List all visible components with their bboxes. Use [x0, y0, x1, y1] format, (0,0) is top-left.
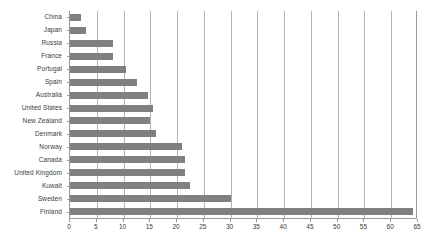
- category-tick: [67, 160, 70, 161]
- bar: [70, 156, 185, 163]
- bar-row: [70, 192, 416, 205]
- category-tick: [67, 17, 70, 18]
- bar: [70, 53, 113, 60]
- value-tick-label: 60: [387, 224, 394, 231]
- bar-row: [70, 205, 416, 218]
- bar-row: [70, 11, 416, 24]
- value-tick: [363, 219, 364, 222]
- bar: [70, 40, 113, 47]
- bar-row: [70, 102, 416, 115]
- value-tick-label: 65: [413, 224, 420, 231]
- value-tick-label: 55: [360, 224, 367, 231]
- bar: [70, 195, 231, 202]
- category-label: Norway: [0, 141, 66, 154]
- value-tick: [149, 219, 150, 222]
- category-tick: [67, 173, 70, 174]
- category-tick: [67, 43, 70, 44]
- bar-row: [70, 179, 416, 192]
- bar-row: [70, 89, 416, 102]
- category-label: Portugal: [0, 63, 66, 76]
- category-label: Russia: [0, 37, 66, 50]
- value-tick-label: 20: [172, 224, 179, 231]
- bar: [70, 169, 185, 176]
- bar-row: [70, 63, 416, 76]
- value-tick-label: 40: [280, 224, 287, 231]
- plot-area: [69, 11, 417, 219]
- category-label: New Zealand: [0, 115, 66, 128]
- bar-row: [70, 76, 416, 89]
- category-label: Japan: [0, 24, 66, 37]
- value-tick-label: 30: [226, 224, 233, 231]
- value-tick-label: 5: [94, 224, 98, 231]
- category-tick: [67, 121, 70, 122]
- value-tick-label: 10: [119, 224, 126, 231]
- category-tick: [67, 82, 70, 83]
- bar: [70, 105, 153, 112]
- category-label: Finland: [0, 206, 66, 219]
- category-tick: [67, 56, 70, 57]
- category-tick: [67, 108, 70, 109]
- bar-row: [70, 115, 416, 128]
- category-axis: ChinaJapanRussiaFrancePortugalSpainAustr…: [0, 11, 66, 219]
- bar-row: [70, 37, 416, 50]
- value-tick: [203, 219, 204, 222]
- value-tick-label: 0: [67, 224, 71, 231]
- bar-chart: ChinaJapanRussiaFrancePortugalSpainAustr…: [0, 0, 442, 244]
- bar-row: [70, 127, 416, 140]
- category-label: China: [0, 11, 66, 24]
- category-label: Kuwait: [0, 180, 66, 193]
- bar: [70, 66, 126, 73]
- category-tick: [67, 30, 70, 31]
- value-tick: [390, 219, 391, 222]
- bar: [70, 130, 156, 137]
- bar: [70, 92, 148, 99]
- category-tick: [67, 199, 70, 200]
- value-tick: [176, 219, 177, 222]
- value-tick-label: 15: [146, 224, 153, 231]
- value-axis: 05101520253035404550556065: [69, 219, 417, 241]
- category-label: Spain: [0, 76, 66, 89]
- bar-row: [70, 166, 416, 179]
- category-tick: [67, 186, 70, 187]
- category-label: Australia: [0, 89, 66, 102]
- value-tick: [96, 219, 97, 222]
- value-tick: [69, 219, 70, 222]
- bar-row: [70, 50, 416, 63]
- bar-row: [70, 153, 416, 166]
- bar: [70, 117, 150, 124]
- category-tick: [67, 147, 70, 148]
- value-tick-label: 50: [333, 224, 340, 231]
- value-tick: [230, 219, 231, 222]
- value-tick: [337, 219, 338, 222]
- value-tick: [256, 219, 257, 222]
- category-tick: [67, 134, 70, 135]
- category-label: France: [0, 50, 66, 63]
- category-tick: [67, 69, 70, 70]
- bars-layer: [70, 11, 416, 218]
- category-label: Sweden: [0, 193, 66, 206]
- value-tick-label: 35: [253, 224, 260, 231]
- bar: [70, 182, 190, 189]
- bar: [70, 27, 86, 34]
- value-tick: [283, 219, 284, 222]
- bar: [70, 14, 81, 21]
- value-tick: [123, 219, 124, 222]
- value-tick-label: 45: [306, 224, 313, 231]
- category-label: Canada: [0, 154, 66, 167]
- category-label: United States: [0, 102, 66, 115]
- category-label: United Kingdom: [0, 167, 66, 180]
- category-tick: [67, 212, 70, 213]
- value-tick: [417, 219, 418, 222]
- category-label: Denmark: [0, 128, 66, 141]
- bar-row: [70, 24, 416, 37]
- bar: [70, 79, 137, 86]
- value-tick-label: 25: [199, 224, 206, 231]
- category-tick: [67, 95, 70, 96]
- bar: [70, 208, 413, 215]
- bar-row: [70, 140, 416, 153]
- bar: [70, 143, 182, 150]
- value-tick: [310, 219, 311, 222]
